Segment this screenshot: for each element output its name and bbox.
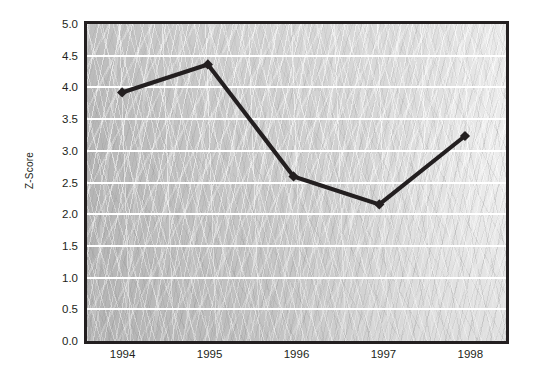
y-tick-label: 0.0 [44,336,78,348]
line-chart-figure: Z-Score 0.00.51.01.52.02.53.03.54.04.55.… [0,0,534,383]
y-tick-label: 3.0 [44,146,78,158]
y-tick-label: 4.0 [44,83,78,95]
y-axis-title: Z-Score [24,126,35,216]
data-series-layer [87,24,506,341]
x-tick-label: 1997 [348,349,418,361]
y-tick-label: 3.5 [44,114,78,126]
data-point-marker [117,87,127,97]
series-line [122,64,465,204]
x-tick-label: 1994 [88,349,158,361]
y-tick-label: 1.5 [44,241,78,253]
y-tick-label: 2.5 [44,178,78,190]
y-tick-label: 5.0 [44,19,78,31]
x-tick-label: 1998 [435,349,505,361]
x-tick-label: 1995 [175,349,245,361]
x-axis-tick-labels: 19941995199619971998 [84,349,509,369]
y-tick-label: 0.5 [44,305,78,317]
x-tick-label: 1996 [262,349,332,361]
y-tick-label: 2.0 [44,209,78,221]
y-tick-label: 1.0 [44,273,78,285]
plot-area [84,21,509,344]
y-tick-label: 4.5 [44,51,78,63]
y-axis-tick-labels: 0.00.51.01.52.02.53.03.54.04.55.0 [44,22,78,343]
